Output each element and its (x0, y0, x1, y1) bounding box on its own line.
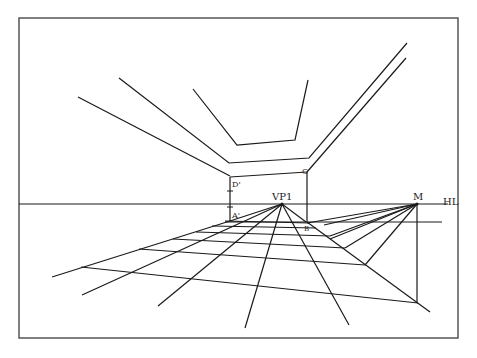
perspective-diagram: VP1 M HL D' A' C B (0, 0, 477, 358)
m-rays (307, 204, 430, 312)
m-point (416, 203, 419, 206)
vp1-point (281, 203, 284, 206)
label-b: B (304, 225, 309, 233)
label-hl: HL (443, 196, 459, 207)
label-vp1: VP1 (271, 191, 292, 202)
label-a-prime: A' (231, 211, 240, 220)
label-d-prime: D' (232, 180, 241, 189)
label-c: C (302, 167, 308, 176)
frame-border (19, 18, 458, 338)
label-m: M (413, 191, 423, 202)
ceiling-lines (78, 43, 407, 222)
